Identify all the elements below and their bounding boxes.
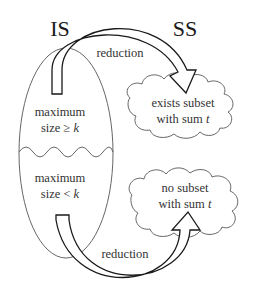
is-upper-line2: size ≥ k [41,121,80,135]
ss-title: SS [173,16,197,41]
bottom-reduction-arrow [56,212,200,278]
ss-lower-line2: with sum t [159,197,212,211]
ss-lower-line1: no subset [162,181,209,195]
ss-upper-line1: exists subset [152,96,215,110]
is-lower-line2: size < k [41,187,80,201]
is-title: IS [50,16,70,41]
is-lower-line1: maximum [35,171,86,185]
reduction-diagram: IS SS reduction reduction maximum size ≥… [0,0,255,288]
wavy-divider [19,147,113,157]
ss-upper-line2: with sum t [157,112,210,126]
is-upper-line1: maximum [35,105,86,119]
top-arrow-label: reduction [96,46,144,60]
bottom-arrow-label: reduction [101,247,149,261]
